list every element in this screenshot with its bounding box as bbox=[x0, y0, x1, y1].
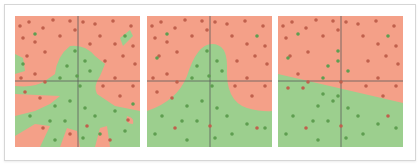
decision-boundary-plot-1 bbox=[15, 16, 140, 147]
plot-panel-smooth bbox=[147, 16, 272, 147]
decision-boundary-plot-3 bbox=[278, 16, 403, 147]
plot-panel-overfit bbox=[15, 16, 140, 147]
plot-panel-linear bbox=[278, 16, 403, 147]
decision-boundary-plot-2 bbox=[147, 16, 272, 147]
